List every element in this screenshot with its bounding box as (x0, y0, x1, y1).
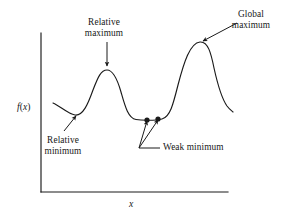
weak-minimum-leader-arrow-2 (139, 120, 158, 148)
diagram-canvas (0, 0, 287, 214)
function-curve (53, 42, 233, 120)
global-maximum-label: Globalmaximum (232, 9, 270, 32)
weak-minimum-point-right (155, 116, 160, 121)
relative-maximum-line2: maximum (85, 28, 123, 39)
global-maximum-line2: maximum (232, 20, 270, 31)
weak-minimum-point-left (144, 117, 149, 122)
weak-minimum-line1: Weak minimum (163, 142, 224, 153)
x-axis-label: x (129, 198, 133, 209)
global-maximum-line1: Global (232, 9, 270, 20)
curve-point-markers (144, 116, 160, 122)
relative-minimum-leader-arrow (64, 116, 76, 131)
extrema-diagram-figure: f(x) x Relativemaximum Globalmaximum Rel… (0, 0, 287, 214)
relative-maximum-line1: Relative (85, 17, 123, 28)
annotation-leaders (64, 23, 237, 148)
y-axis-label: f(x) (17, 101, 30, 112)
relative-minimum-label: Relativeminimum (45, 135, 82, 158)
relative-minimum-line2: minimum (45, 146, 82, 157)
weak-minimum-leader-arrow-1 (139, 121, 147, 148)
relative-maximum-label: Relativemaximum (85, 17, 123, 40)
relative-minimum-line1: Relative (45, 135, 82, 146)
y-axis-label-close-paren: ) (27, 101, 30, 112)
weak-minimum-label: Weak minimum (163, 142, 224, 153)
